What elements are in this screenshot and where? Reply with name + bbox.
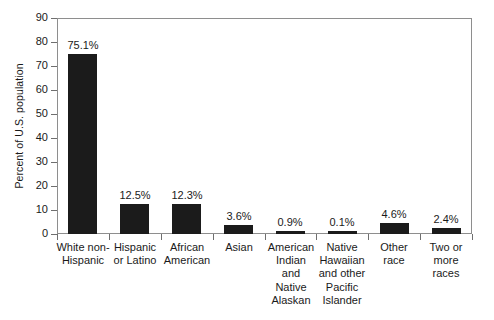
y-tick-label: 60 (4, 84, 48, 95)
x-category-label-line: Hawaiian (312, 254, 372, 267)
x-category-label-line: White non- (53, 241, 113, 254)
x-category-label-line: race (364, 254, 424, 267)
x-category-label-line: Other (364, 241, 424, 254)
y-axis-title: Percent of U.S. population (12, 18, 26, 234)
x-category-label-line: Hispanic (53, 254, 113, 267)
x-category-label-line: races (416, 267, 476, 280)
x-category-label: Two ormoreraces (416, 241, 476, 281)
x-category-label-line: Hispanic (105, 241, 165, 254)
y-tick-label: 90 (4, 12, 48, 23)
bar-value-label: 75.1% (53, 39, 113, 51)
y-tick-label: 80 (4, 36, 48, 47)
x-category-label-line: American (157, 254, 217, 267)
x-tick-mark (265, 234, 266, 240)
x-category-label: Asian (209, 241, 269, 254)
x-category-label-line: Asian (209, 241, 269, 254)
x-category-label-line: Pacific (312, 281, 372, 294)
x-tick-mark (316, 234, 317, 240)
x-category-label-line: Two or (416, 241, 476, 254)
x-tick-mark (472, 234, 473, 240)
x-tick-mark (368, 234, 369, 240)
x-category-label: AfricanAmerican (157, 241, 217, 267)
bar (328, 231, 357, 234)
x-tick-mark (213, 234, 214, 240)
plot-area (57, 18, 472, 234)
y-tick-label: 20 (4, 180, 48, 191)
x-category-label-line: African (157, 241, 217, 254)
x-category-label: Hispanicor Latino (105, 241, 165, 267)
x-category-label: NativeHawaiianand otherPacificIslander (312, 241, 372, 307)
x-category-label-line: Islander (312, 294, 372, 307)
x-tick-mark (57, 234, 58, 240)
x-category-label: White non-Hispanic (53, 241, 113, 267)
bar (432, 228, 461, 234)
x-tick-mark (109, 234, 110, 240)
x-category-label-line: more (416, 254, 476, 267)
bar-value-label: 4.6% (364, 208, 424, 220)
y-tick-label: 70 (4, 60, 48, 71)
bar (276, 231, 305, 234)
x-category-label-line: Native (312, 241, 372, 254)
x-tick-mark (161, 234, 162, 240)
bar (120, 204, 149, 234)
bar-value-label: 0.9% (260, 216, 320, 228)
y-tick-label: 30 (4, 156, 48, 167)
y-tick-label: 0 (4, 228, 48, 239)
bar-value-label: 2.4% (416, 213, 476, 225)
x-category-label-line: or Latino (105, 254, 165, 267)
x-tick-mark (420, 234, 421, 240)
bar (224, 225, 253, 234)
x-category-label-line: and other (312, 267, 372, 280)
bar-value-label: 0.1% (312, 216, 372, 228)
y-tick-label: 40 (4, 132, 48, 143)
bar (172, 204, 201, 234)
bar-value-label: 12.3% (157, 189, 217, 201)
bar-value-label: 12.5% (105, 189, 165, 201)
bar (380, 223, 409, 234)
y-tick-label: 10 (4, 204, 48, 215)
bar-chart: Percent of U.S. population 0102030405060… (0, 0, 494, 320)
x-category-label: Otherrace (364, 241, 424, 267)
bar (68, 54, 97, 234)
y-tick-label: 50 (4, 108, 48, 119)
